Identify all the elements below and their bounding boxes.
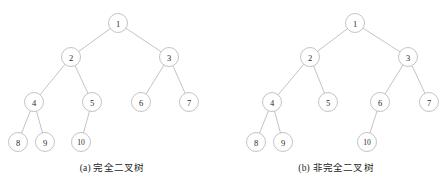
node-circle [180,93,199,112]
tree-edge [260,111,269,133]
tree-edge [75,66,88,94]
tree-node: 9 [274,133,293,152]
node-group-a: 12345678910 [9,14,199,152]
tree-edge [84,111,90,133]
node-circle [263,93,282,112]
node-circle [319,93,338,112]
tree-node: 6 [371,93,390,112]
node-circle [371,93,390,112]
node-circle [132,93,151,112]
node-circle [274,133,293,152]
tree-edge [385,65,403,94]
tree-node: 9 [36,133,55,152]
edge-group-a [22,28,186,133]
tree-node: 2 [301,48,320,67]
binary-tree-figure-a: 12345678910 (a) 完全二叉树 [0,0,224,181]
tree-node: 3 [160,48,179,67]
tree-node: 1 [109,14,128,33]
tree-edge [412,66,425,94]
tree-node: 3 [399,48,418,67]
tree-edge [363,28,400,52]
tree-edge [40,64,65,94]
tree-node: 4 [25,93,44,112]
tree-node: 7 [420,93,439,112]
tree-edge [370,111,377,133]
tree-edge [318,29,348,52]
node-circle [109,14,128,33]
tree-graph-a: 12345678910 [0,0,224,160]
node-circle [160,48,179,67]
tree-edge [146,65,164,94]
tree-node: 10 [358,133,377,152]
tree-edge [275,111,281,133]
tree-graph-b: 12345678910 [224,0,448,160]
node-circle [83,93,102,112]
node-circle [62,48,81,67]
tree-edge [37,111,43,133]
tree-edge [79,29,111,52]
tree-edge [22,111,31,133]
node-circle [358,133,377,152]
node-circle [420,93,439,112]
tree-node: 5 [319,93,338,112]
node-circle [301,48,320,67]
tree-node: 6 [132,93,151,112]
node-circle [36,133,55,152]
tree-node: 2 [62,48,81,67]
tree-node: 8 [247,133,266,152]
figure-caption-a: (a) 完全二叉树 [0,160,224,174]
tree-edge [173,66,185,94]
tree-node: 8 [9,133,28,152]
tree-node: 5 [83,93,102,112]
tree-node: 10 [72,133,91,152]
tree-edge [314,66,325,93]
node-circle [247,133,266,152]
tree-node: 1 [346,14,365,33]
node-circle [25,93,44,112]
diagram-canvas: 12345678910 (a) 完全二叉树 12345678910 (b) 非完… [0,0,448,181]
node-circle [399,48,418,67]
node-circle [72,133,91,152]
node-circle [346,14,365,33]
node-group-b: 12345678910 [247,14,439,152]
binary-tree-figure-b: 12345678910 (b) 非完全二叉树 [224,0,448,181]
tree-edge [126,28,161,51]
node-circle [9,133,28,152]
tree-node: 4 [263,93,282,112]
tree-edge [278,64,304,94]
edge-group-b [260,28,425,133]
figure-caption-b: (b) 非完全二叉树 [224,160,448,174]
tree-node: 7 [180,93,199,112]
